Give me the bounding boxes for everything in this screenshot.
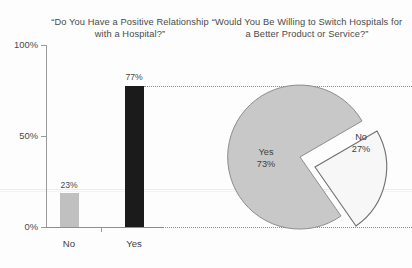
pie-label-yes-value: 73% [240, 158, 292, 170]
y-axis-label-100: 100% [4, 39, 38, 50]
y-tick-0 [41, 227, 46, 228]
y-tick-50 [41, 136, 46, 137]
pie-label-yes: Yes 73% [240, 146, 292, 170]
pie-chart [205, 80, 412, 240]
bar-chart-y-axis [46, 45, 47, 228]
x-tick-mid [101, 227, 102, 232]
x-axis-label-yes: Yes [111, 238, 157, 249]
bar-value-no: 23% [49, 180, 89, 190]
y-axis-label-50: 50% [4, 130, 38, 141]
pie-chart-title: “Would You Be Willing to Switch Hospital… [208, 16, 406, 41]
y-tick-100 [41, 45, 46, 46]
x-axis-label-no: No [46, 238, 92, 249]
y-axis-label-0: 0% [4, 221, 38, 232]
bar-value-yes: 77% [114, 72, 154, 82]
bar-chart-title: “Do You Have a Positive Relationship wit… [42, 16, 218, 41]
pie-label-no-value: 27% [338, 143, 384, 155]
pie-label-yes-name: Yes [240, 146, 292, 158]
figure-canvas: “Do You Have a Positive Relationship wit… [0, 0, 412, 268]
pie-chart-svg [205, 80, 412, 240]
bar-no [60, 193, 79, 227]
bar-yes [125, 86, 144, 227]
pie-label-no-name: No [338, 131, 384, 143]
pie-label-no: No 27% [338, 131, 384, 155]
